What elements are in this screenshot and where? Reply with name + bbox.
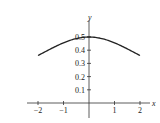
x-tick-label: −2 <box>34 106 43 115</box>
y-tick-label: 0.1 <box>75 86 85 95</box>
y-tick-label: 0.4 <box>75 46 85 55</box>
chart: xy−2−1120.10.20.30.40.5 <box>0 0 160 123</box>
y-tick-label: 0.3 <box>75 59 85 68</box>
axes <box>27 20 150 118</box>
x-tick-label: 2 <box>138 106 142 115</box>
x-tick-label: 1 <box>113 106 117 115</box>
x-axis-label: x <box>151 99 156 108</box>
y-axis-label: y <box>87 13 92 22</box>
x-tick-label: −1 <box>59 106 68 115</box>
y-tick-label: 0.2 <box>75 73 85 82</box>
tick-labels: xy−2−1120.10.20.30.40.5 <box>34 13 156 115</box>
